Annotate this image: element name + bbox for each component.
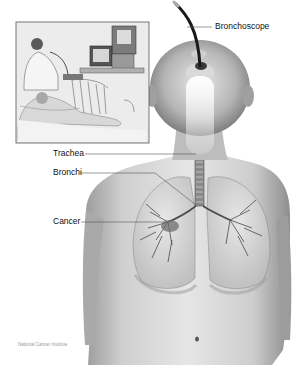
label-bronchi: Bronchi: [53, 168, 82, 177]
bronchoscopy-illustration: [0, 0, 303, 369]
label-cancer: Cancer: [53, 217, 80, 226]
credit-text: National Cancer Institute: [18, 342, 67, 347]
inset-procedure-scene: [16, 22, 149, 143]
label-bronchoscope: Bronchoscope: [215, 22, 269, 31]
label-trachea: Trachea: [53, 149, 84, 158]
